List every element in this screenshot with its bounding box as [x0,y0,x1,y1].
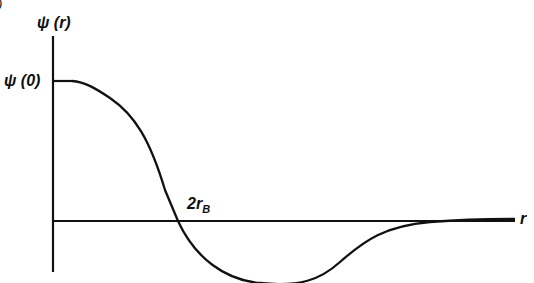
wavefunction-plot [0,0,534,283]
wavefunction-curve [72,81,515,283]
